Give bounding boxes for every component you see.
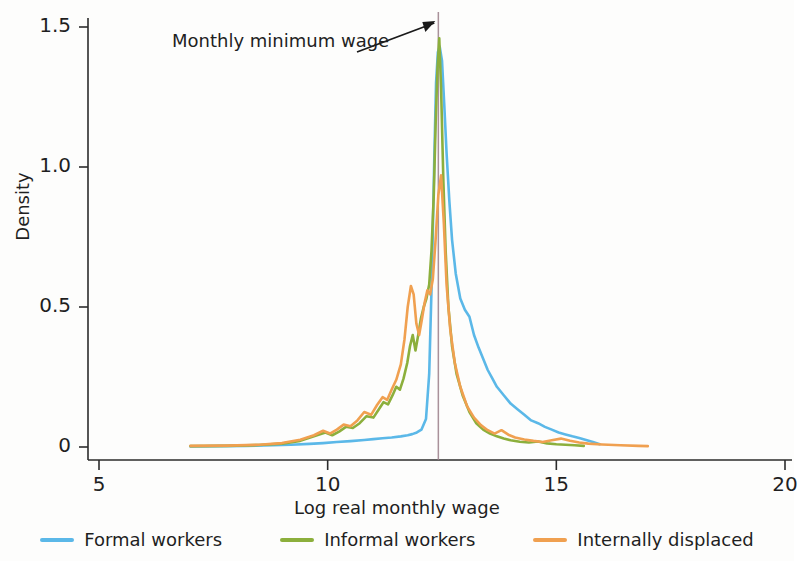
legend-label: Internally displaced [577, 529, 753, 550]
chart-legend: Formal workersInformal workersInternally… [0, 529, 794, 550]
legend-label: Informal workers [324, 529, 475, 550]
x-axis-title: Log real monthly wage [0, 497, 794, 518]
x-tick-label: 10 [298, 472, 358, 496]
density-curve [190, 38, 583, 446]
density-curves [190, 38, 647, 446]
legend-item: Formal workers [40, 529, 222, 550]
x-tick-label: 15 [526, 472, 586, 496]
x-tick-label: 20 [755, 472, 802, 496]
y-tick-label: 1.5 [11, 13, 71, 37]
y-axis-title: Density [12, 157, 33, 257]
legend-swatch-icon [533, 538, 567, 542]
density-curve [190, 175, 647, 446]
legend-item: Informal workers [280, 529, 475, 550]
minimum-wage-annotation [357, 12, 438, 460]
annotation-label: Monthly minimum wage [172, 30, 389, 51]
legend-swatch-icon [40, 538, 74, 542]
x-tick-label: 5 [69, 472, 129, 496]
y-tick-label: 0.5 [11, 293, 71, 317]
y-tick-label: 0 [11, 433, 71, 457]
legend-swatch-icon [280, 538, 314, 542]
legend-label: Formal workers [84, 529, 222, 550]
legend-item: Internally displaced [533, 529, 753, 550]
